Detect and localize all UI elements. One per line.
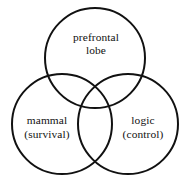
prefrontal-lobe-label-line2: lobe [86,44,106,56]
prefrontal-lobe-label-line1: prefrontal [73,31,119,43]
mammal-survival-label-line1: mammal [27,114,67,126]
logic-control-circle [78,74,178,174]
venn-diagram-canvas: prefrontal lobe mammal (survival) logic … [0,0,190,183]
prefrontal-lobe-circle [45,8,145,108]
logic-control-label-line2: (control) [123,128,164,141]
venn-diagram: prefrontal lobe mammal (survival) logic … [0,0,190,183]
mammal-survival-label-line2: (survival) [24,128,69,141]
logic-control-label-line1: logic [131,114,154,126]
